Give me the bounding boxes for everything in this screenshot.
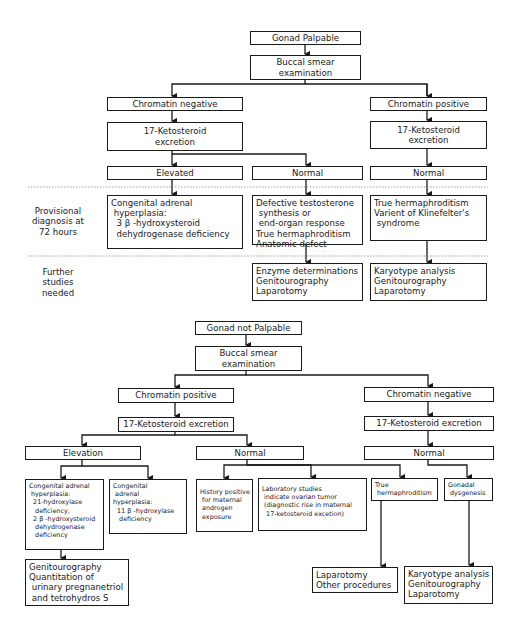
maternal-androgen-node: History positive for maternal androgen e… (196, 479, 253, 532)
studies-karyotype-analysis: Karyotype analysis Genitourography Lapar… (370, 263, 487, 301)
true-hermaphroditism-node: True hermaphroditism (371, 478, 438, 501)
bottom-chromatin-negative-node: Chromatin negative (364, 387, 494, 402)
node-label: Elevated (156, 168, 194, 178)
node-label: 17-Ketosteroid excretion (123, 419, 228, 429)
node-label: 17-Ketosteroid excretion (397, 125, 460, 145)
top-neg-ketosteroid-node: 17-Ketosteroid excretion (107, 122, 243, 151)
node-label: Elevation (63, 448, 103, 458)
top-pos-ketosteroid-node: 17-Ketosteroid excretion (370, 121, 487, 149)
gonad-not-palpable-node: Gonad not Palpable (195, 321, 302, 335)
top-elevated-node: Elevated (107, 166, 243, 180)
bottom-pos-ketosteroid-node: 17-Ketosteroid excretion (118, 417, 234, 432)
karyotype-analysis-node: Karyotype analysis Genitourography Lapar… (404, 566, 493, 604)
node-label: Normal (234, 448, 265, 458)
node-label: Chromatin positive (135, 390, 216, 400)
node-label: Normal (413, 168, 444, 178)
genitourography-pregnanetriol-node: Genitourography Quantitation of urinary … (25, 559, 129, 606)
node-label: Buccal smear examination (276, 57, 334, 77)
ovarian-tumor-node: Laboratory studies indicate ovarian tumo… (258, 478, 367, 531)
top-buccal-smear-node: Buccal smear examination (250, 55, 361, 80)
gonad-palpable-node: Gonad Palpable (250, 31, 361, 45)
bottom-chromatin-positive-node: Chromatin positive (118, 388, 234, 403)
bottom-neg-ketosteroid-node: 17-Ketosteroid excretion (364, 416, 494, 431)
diagnosis-3beta-hsd-deficiency: Congenital adrenal hyperplasia: 3 β -hyd… (107, 195, 243, 249)
node-label: Gonad not Palpable (207, 323, 291, 333)
cah-11beta-hydroxylase-node: Congenital adrenal hyperplasia: 11 β -hy… (109, 479, 187, 534)
top-chromatin-negative-node: Chromatin negative (107, 97, 243, 111)
node-label: 17-Ketosteroid excretion (376, 418, 481, 428)
node-label: 17-Ketosteroid excretion (144, 126, 207, 146)
node-label: Normal (292, 168, 323, 178)
bottom-normal-mid-node: Normal (196, 446, 304, 460)
node-label: Buccal smear examination (219, 348, 277, 368)
laparotomy-other-procedures-node: Laparotomy Other procedures (312, 567, 398, 593)
bottom-buccal-smear-node: Buccal smear examination (195, 346, 302, 371)
cah-21-hydroxylase-node: Congenital adrenal hyperplasia: 21-hydro… (25, 479, 104, 550)
row-label-provisional-diagnosis: Provisional diagnosis at 72 hours (18, 206, 98, 237)
gonadal-dysgenesis-node: Gonadal dysgenesis (444, 478, 493, 501)
top-chromatin-positive-node: Chromatin positive (370, 97, 487, 111)
bottom-normal-right-node: Normal (364, 446, 494, 460)
bottom-elevation-node: Elevation (25, 446, 141, 460)
node-label: Chromatin positive (388, 99, 469, 109)
row-label-further-studies: Further studies needed (18, 267, 98, 298)
node-label: Gonad Palpable (272, 33, 339, 43)
node-label: Normal (413, 448, 444, 458)
diagnosis-defective-testosterone: Defective testosterone synthesis or end-… (252, 195, 363, 245)
diagnosis-true-hermaphroditism-klinefelter: True hermaphroditism Varient of Klinefel… (370, 195, 487, 241)
top-normal-mid-node: Normal (252, 166, 363, 180)
top-normal-right-node: Normal (370, 166, 487, 180)
node-label: Chromatin negative (132, 99, 217, 109)
studies-enzyme-determinations: Enzyme determinations Genitourography La… (252, 263, 363, 301)
node-label: Chromatin negative (386, 389, 471, 399)
